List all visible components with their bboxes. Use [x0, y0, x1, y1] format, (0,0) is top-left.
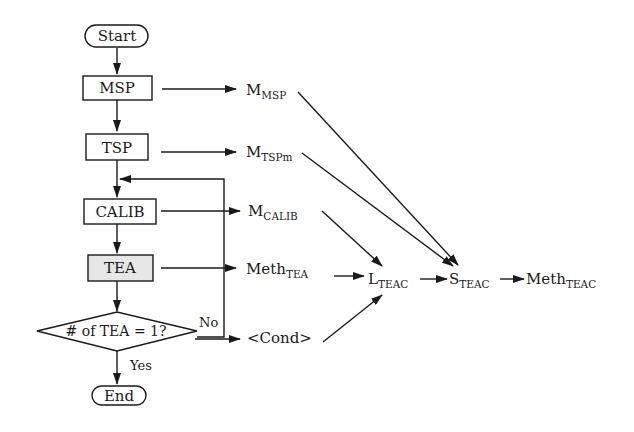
end-label: End: [104, 387, 135, 405]
line-mcalib-lteac: [322, 211, 382, 266]
decision-yes-label: Yes: [129, 358, 152, 373]
output-m-msp: MMSP: [246, 81, 286, 101]
calib-label: CALIB: [95, 203, 144, 221]
result-l-teac: LTEAC: [368, 270, 408, 290]
output-m-tspm: MTSPm: [246, 143, 293, 163]
output-meth-tea: MethTEA: [246, 260, 309, 280]
decision-no-label: No: [199, 315, 218, 330]
result-meth-teac: MethTEAC: [526, 270, 596, 290]
output-cond: <Cond>: [247, 329, 312, 347]
result-s-teac: STEAC: [449, 270, 490, 290]
tea-label: TEA: [104, 259, 136, 277]
line-mtsp-steac: [302, 153, 453, 266]
line-mmsp-steac: [298, 92, 458, 265]
flowchart-canvas: Start MSP TSP CALIB TEA # of TEA = 1? No…: [0, 0, 634, 432]
output-m-calib: MCALIB: [248, 202, 298, 222]
decision-label: # of TEA = 1?: [66, 323, 167, 339]
start-label: Start: [98, 27, 136, 45]
line-cond-lteac: [323, 295, 382, 342]
msp-label: MSP: [99, 79, 135, 97]
tsp-label: TSP: [102, 139, 132, 157]
